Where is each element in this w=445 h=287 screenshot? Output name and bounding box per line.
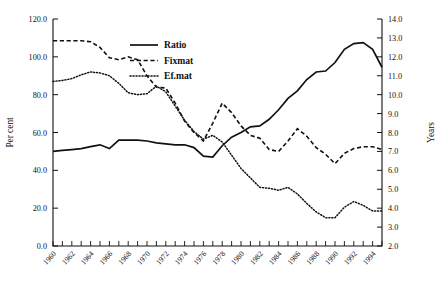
x-axis-tick-label: 1990 <box>323 249 340 266</box>
y-axis-tick-label: 100.0 <box>29 53 47 62</box>
line-chart: 0.020.040.060.080.0100.0120.02.03.04.05.… <box>0 0 445 287</box>
x-axis-tick-label: 1970 <box>135 249 152 266</box>
y2-axis-tick-label: 13.0 <box>388 34 402 43</box>
legend-label-fixmat: Fixmat <box>164 55 194 66</box>
x-axis-tick-label: 1964 <box>79 249 96 266</box>
y2-axis-tick-label: 5.0 <box>388 185 398 194</box>
series-line-ef-mat <box>53 72 382 218</box>
x-axis-tick-label: 1974 <box>173 249 190 266</box>
y2-axis-tick-label: 4.0 <box>388 204 398 213</box>
chart-container: 0.020.040.060.080.0100.0120.02.03.04.05.… <box>0 0 445 287</box>
y-axis-tick-label: 20.0 <box>33 204 47 213</box>
y2-axis-tick-label: 9.0 <box>388 110 398 119</box>
legend-label-ef-mat: Ef.mat <box>164 70 193 81</box>
y2-axis-tick-label: 12.0 <box>388 53 402 62</box>
y-axis-tick-label: 60.0 <box>33 129 47 138</box>
y-axis-tick-label: 120.0 <box>29 15 47 24</box>
y-axis-tick-label: 40.0 <box>33 166 47 175</box>
y2-axis-tick-label: 7.0 <box>388 147 398 156</box>
y2-axis-tick-label: 2.0 <box>388 242 398 251</box>
y2-axis-tick-label: 6.0 <box>388 166 398 175</box>
y2-axis-tick-label: 10.0 <box>388 91 402 100</box>
y2-axis-tick-label: 3.0 <box>388 223 398 232</box>
y2-axis-tick-label: 14.0 <box>388 15 402 24</box>
x-axis-tick-label: 1960 <box>41 249 58 266</box>
legend-label-ratio: Ratio <box>164 39 187 50</box>
y2-axis-tick-label: 11.0 <box>388 72 402 81</box>
x-axis-tick-label: 1968 <box>116 249 133 266</box>
y-axis-tick-label: 0.0 <box>37 242 47 251</box>
series-line-ratio <box>53 43 382 157</box>
x-axis-tick-label: 1966 <box>98 249 115 266</box>
x-axis-tick-label: 1972 <box>154 249 171 266</box>
x-axis-tick-label: 1994 <box>361 249 378 266</box>
x-axis-tick-label: 1978 <box>210 249 227 266</box>
x-axis-tick-label: 1986 <box>286 249 303 266</box>
x-axis-tick-label: 1992 <box>342 249 359 266</box>
x-axis-tick-label: 1976 <box>192 249 209 266</box>
x-axis-tick-label: 1962 <box>60 249 77 266</box>
x-axis-tick-label: 1982 <box>248 249 265 266</box>
x-axis-tick-label: 1984 <box>267 249 284 266</box>
x-axis-tick-label: 1988 <box>304 249 321 266</box>
y2-axis-title: Years <box>426 122 436 143</box>
y-axis-tick-label: 80.0 <box>33 91 47 100</box>
y-axis-title: Per cent <box>5 117 15 148</box>
chart-axes <box>53 19 382 246</box>
y2-axis-tick-label: 8.0 <box>388 129 398 138</box>
x-axis-tick-label: 1980 <box>229 249 246 266</box>
